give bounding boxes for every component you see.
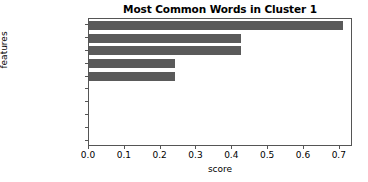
bar <box>89 59 175 68</box>
bars-layer <box>89 19 351 145</box>
bar <box>89 21 343 30</box>
bar <box>89 34 241 43</box>
x-tick-label: 0.7 <box>322 150 356 160</box>
y-axis-label: features <box>0 20 9 80</box>
x-tick-label: 0.4 <box>214 150 248 160</box>
plot-area <box>88 18 352 146</box>
x-axis-label: score <box>88 164 352 174</box>
bar-row <box>89 57 353 70</box>
bar-row <box>89 121 353 134</box>
bar-row <box>89 45 353 58</box>
chart-title: Most Common Words in Cluster 1 <box>88 3 352 15</box>
x-tick-mark <box>88 146 89 149</box>
bar-row <box>89 83 353 96</box>
x-tick-mark <box>303 146 304 149</box>
bar-chart-figure: Most Common Words in Cluster 1 features … <box>0 0 368 182</box>
x-tick-mark <box>339 146 340 149</box>
bar-row <box>89 19 353 32</box>
bar-row <box>89 96 353 109</box>
x-tick-mark <box>267 146 268 149</box>
bar-row <box>89 32 353 45</box>
bar-row <box>89 134 353 147</box>
x-tick-label: 0.5 <box>250 150 284 160</box>
x-tick-label: 0.0 <box>71 150 105 160</box>
x-tick-label: 0.1 <box>107 150 141 160</box>
x-tick-mark <box>231 146 232 149</box>
bar-row <box>89 70 353 83</box>
x-tick-mark <box>160 146 161 149</box>
x-tick-label: 0.2 <box>143 150 177 160</box>
bar <box>89 72 175 81</box>
x-tick-label: 0.3 <box>178 150 212 160</box>
x-tick-mark <box>195 146 196 149</box>
x-tick-label: 0.6 <box>286 150 320 160</box>
bar-row <box>89 109 353 122</box>
bar <box>89 46 241 55</box>
x-tick-mark <box>124 146 125 149</box>
